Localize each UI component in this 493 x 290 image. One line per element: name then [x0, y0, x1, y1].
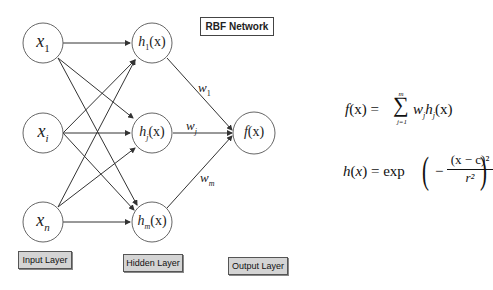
left-paren: ( — [422, 150, 429, 190]
sum-term: wjhj(x) — [413, 101, 452, 120]
weight-w1-label: w1 — [198, 80, 211, 98]
input-layer-label: Input Layer — [18, 251, 72, 269]
output-node-f-label: f(x) — [232, 124, 276, 140]
output-formula: f(x) = m ∑ j=1 wjhj(x) — [345, 88, 485, 128]
minus-sign: − — [435, 163, 443, 180]
input-hidden-connections — [58, 43, 137, 222]
hidden-layer-label: Hidden Layer — [123, 254, 183, 272]
sum-lower-limit: j=1 — [394, 118, 410, 126]
hidden-node-hj-label: hj(x) — [130, 124, 174, 142]
weight-wm-label: wm — [200, 170, 214, 188]
diagram-title: RBF Network — [200, 17, 274, 36]
rbf-formula: h(x) = exp ( − (x − c)² r² ) — [343, 150, 489, 196]
weight-wj-label: wj — [186, 118, 197, 136]
output-layer-label: Output Layer — [228, 257, 288, 275]
input-node-x1-label: x1 — [23, 31, 63, 54]
sum-symbol: ∑ — [393, 94, 409, 116]
right-paren: ) — [480, 150, 487, 190]
hidden-node-hm-label: hm(x) — [130, 213, 174, 231]
input-node-xn-label: xn — [23, 210, 63, 233]
input-node-xi-label: xi — [23, 121, 63, 144]
hidden-node-h1-label: h1(x) — [130, 34, 174, 52]
